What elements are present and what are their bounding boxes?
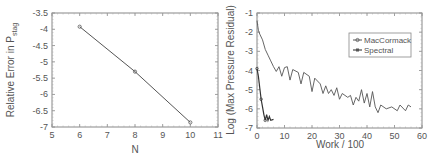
x-tick-label: 8 (132, 130, 137, 140)
right-ticks: 0102030405060-1-2-3-4-5-6-7 (245, 8, 427, 141)
y-tick-label: -6 (245, 104, 253, 114)
x-tick-label: 11 (213, 130, 222, 140)
y-tick-label: -7 (40, 122, 48, 132)
x-tick-label: 7 (105, 130, 110, 140)
spectral-marker-icon (356, 49, 359, 52)
right-x-axis-label: Work / 100 (316, 139, 365, 150)
y-tick-label: -3.5 (32, 8, 48, 18)
x-tick-label: 10 (185, 130, 195, 140)
y-tick-label: -5 (245, 85, 253, 95)
left-chart: 567891011-3.5-4-4.5-5-5.5-6-6.5-7 N Rela… (5, 8, 223, 155)
x-tick-label: 60 (417, 131, 427, 141)
left-y-axis-label-sub: stag (11, 23, 19, 36)
series-line-error (80, 27, 191, 123)
left-x-axis-label: N (131, 144, 138, 155)
y-tick-label: -4.5 (32, 41, 48, 51)
left-y-axis-label-main: Relative Error in P (5, 36, 16, 117)
y-tick-label: -4 (245, 66, 253, 76)
figure: 567891011-3.5-4-4.5-5-5.5-6-6.5-7 N Rela… (0, 0, 445, 157)
y-tick-label: -2 (245, 27, 253, 37)
x-tick-label: 9 (160, 130, 165, 140)
right-chart: 0102030405060-1-2-3-4-5-6-7 Work / 100 L… (225, 5, 427, 150)
x-tick-label: 50 (389, 131, 399, 141)
legend-label-maccormack: MacCormack (364, 36, 412, 45)
y-tick-label: -6 (40, 89, 48, 99)
y-tick-label: -7 (245, 123, 253, 133)
x-tick-label: 0 (254, 131, 259, 141)
y-tick-label: -3 (245, 46, 253, 56)
left-y-axis-label: Relative Error in Pstag (5, 23, 19, 117)
legend-label-spectral: Spectral (364, 46, 394, 55)
x-tick-label: 6 (77, 130, 82, 140)
left-series (78, 25, 192, 124)
series-line-spectral (257, 69, 274, 121)
y-tick-label: -1 (245, 8, 253, 18)
y-tick-label: -5 (40, 57, 48, 67)
y-tick-label: -4 (40, 24, 48, 34)
left-ticks: 567891011-3.5-4-4.5-5-5.5-6-6.5-7 (32, 8, 222, 140)
x-tick-label: 10 (279, 131, 289, 141)
x-tick-label: 5 (49, 130, 54, 140)
legend: MacCormack Spectral (349, 33, 412, 57)
y-tick-label: -6.5 (32, 106, 48, 116)
right-y-axis-label: Log (Max Pressure Residual) (225, 5, 236, 135)
y-tick-label: -5.5 (32, 73, 48, 83)
